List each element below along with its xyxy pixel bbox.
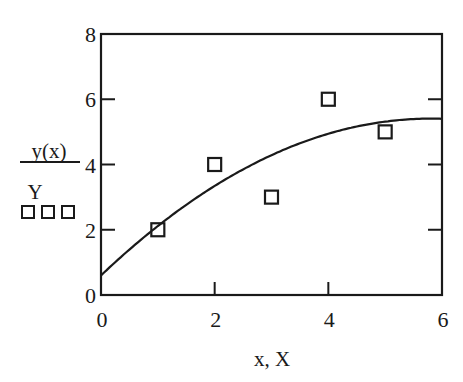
y-tick-label: 2 (85, 218, 96, 243)
y-tick-label: 4 (85, 153, 96, 178)
y-tick-label: 6 (85, 87, 96, 112)
data-point-markers (151, 93, 391, 237)
x-axis-label: x, X (254, 347, 290, 371)
plot-frame (101, 34, 442, 295)
x-tick-label: 6 (438, 307, 449, 332)
data-point-square-icon (322, 93, 335, 106)
y-axis-label: y(x) Y (20, 139, 80, 218)
y-tick-label: 8 (85, 22, 96, 47)
y-axis-ticks: 02468 (85, 22, 442, 308)
fit-curve-line (101, 119, 442, 276)
chart: 0246 02468 x, X y(x) Y (0, 0, 463, 382)
data-point-square-icon (379, 125, 392, 138)
legend-square-icon (22, 206, 34, 218)
data-point-square-icon (265, 191, 278, 204)
x-axis-ticks: 0246 (97, 282, 449, 332)
legend-square-icon (42, 206, 54, 218)
x-tick-label: 4 (324, 307, 335, 332)
y-axis-label-denominator: Y (27, 180, 42, 204)
y-axis-label-numerator: y(x) (32, 139, 67, 163)
legend-square-markers-icon (22, 206, 74, 218)
x-tick-label: 0 (97, 307, 108, 332)
data-point-square-icon (208, 158, 221, 171)
legend-square-icon (62, 206, 74, 218)
y-tick-label: 0 (85, 283, 96, 308)
x-tick-label: 2 (210, 307, 221, 332)
